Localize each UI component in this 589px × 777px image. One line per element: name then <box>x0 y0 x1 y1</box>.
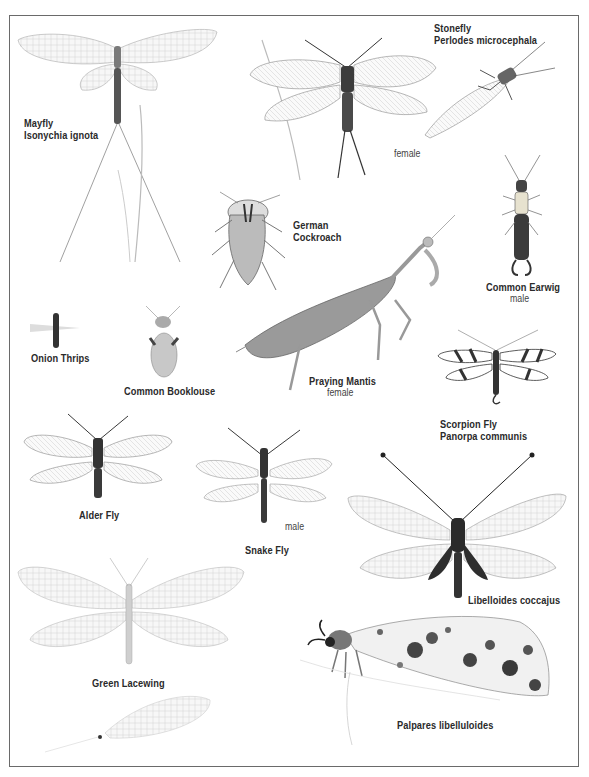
onion-thrips-illustration <box>30 313 80 348</box>
illustration-layer <box>0 0 589 777</box>
alder-fly-label: Alder Fly <box>79 509 119 522</box>
common-booklouse-illustration <box>146 306 180 377</box>
green-lacewing-illustration <box>18 558 244 664</box>
praying-mantis-illustration <box>236 215 455 390</box>
onion-thrips-label: Onion Thrips <box>31 352 90 365</box>
common-earwig-illustration <box>502 155 542 275</box>
mayfly-scientific-label: Isonychia ignota <box>24 129 98 142</box>
scorpion-fly-illustration <box>438 330 556 404</box>
palpares-label: Palpares libelluloides <box>397 719 493 732</box>
scorpion-fly-scientific-label: Panorpa communis <box>440 430 527 443</box>
stonefly-scientific-label: Perlodes microcephala <box>434 34 537 47</box>
libelloides-label: Libelloides coccajus <box>468 594 560 607</box>
mantis-sex-note: female <box>327 387 353 399</box>
earwig-sex-note: male <box>510 293 529 305</box>
stonefly-side-illustration <box>425 42 555 138</box>
libelloides-coccajus-illustration <box>348 453 566 599</box>
snake-fly-illustration <box>196 428 332 523</box>
stonefly-sex-note: female <box>394 148 420 160</box>
snake-fly-sex-note: male <box>285 521 304 533</box>
lacewing-side-illustration <box>45 696 210 752</box>
cockroach-label-line2: Cockroach <box>293 231 342 244</box>
booklouse-label: Common Booklouse <box>124 385 215 398</box>
german-cockroach-illustration <box>212 192 285 290</box>
alder-fly-illustration <box>24 414 172 498</box>
snake-fly-label: Snake Fly <box>245 544 289 557</box>
green-lacewing-label: Green Lacewing <box>92 677 165 690</box>
mayfly-illustration <box>18 29 217 262</box>
